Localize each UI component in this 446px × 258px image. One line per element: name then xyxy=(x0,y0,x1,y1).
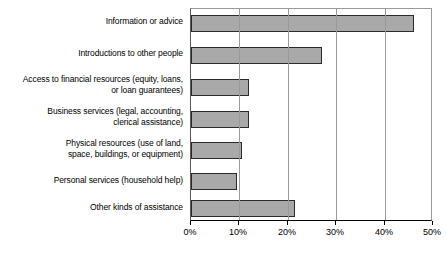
category-label: Other kinds of assistance xyxy=(0,202,183,213)
x-axis-tick xyxy=(384,221,385,225)
x-axis-tick-label: 30% xyxy=(315,227,355,238)
category-label-column: Information or advice Introductions to o… xyxy=(0,8,183,221)
bar xyxy=(191,79,249,96)
category-label: Information or advice xyxy=(0,16,183,27)
x-axis-tick xyxy=(190,221,191,225)
bar xyxy=(191,142,242,159)
category-label: Physical resources (use of land, space, … xyxy=(0,138,183,159)
gridline xyxy=(336,9,337,220)
category-label: Access to financial resources (equity, l… xyxy=(0,74,183,95)
bar xyxy=(191,200,295,217)
x-axis-tick xyxy=(432,221,433,225)
bar xyxy=(191,173,237,190)
gridline xyxy=(239,9,240,220)
category-label: Introductions to other people xyxy=(0,48,183,59)
x-axis-tick xyxy=(287,221,288,225)
bar xyxy=(191,47,322,64)
x-axis-tick xyxy=(238,221,239,225)
x-axis-tick-label: 40% xyxy=(364,227,404,238)
gridline xyxy=(385,9,386,220)
category-label: Business services (legal, accounting, cl… xyxy=(0,106,183,127)
x-axis-tick-label: 20% xyxy=(267,227,307,238)
gridline xyxy=(288,9,289,220)
bar xyxy=(191,111,249,128)
category-label: Personal services (household help) xyxy=(0,175,183,186)
plot-area xyxy=(190,8,432,221)
x-axis-tick-label: 10% xyxy=(218,227,258,238)
x-axis-tick xyxy=(335,221,336,225)
bar xyxy=(191,15,414,32)
x-axis-tick-label: 50% xyxy=(412,227,446,238)
x-axis-tick-label: 0% xyxy=(170,227,210,238)
